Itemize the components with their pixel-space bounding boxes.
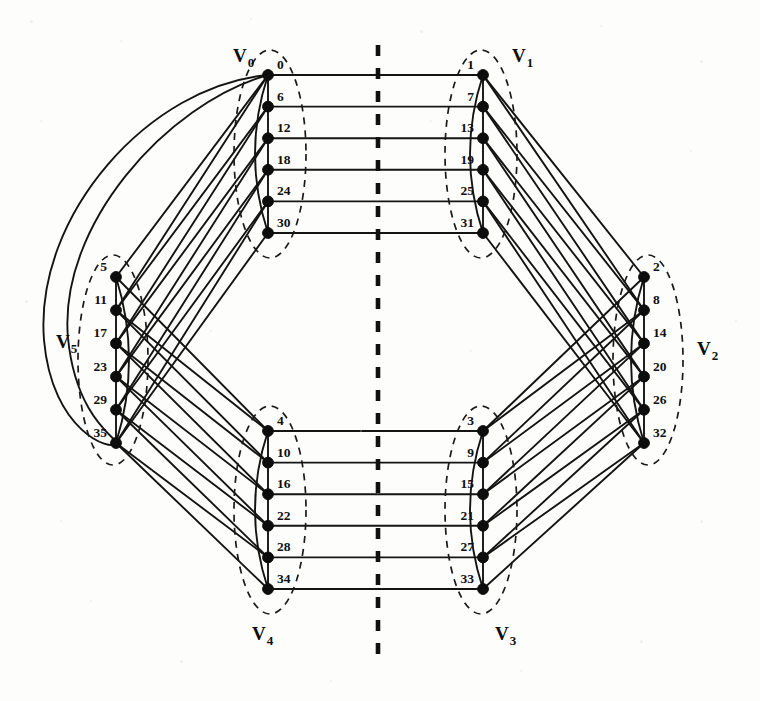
vertex-label-18: 18 <box>277 152 291 167</box>
vertex-25[interactable] <box>478 196 489 207</box>
vertex-label-28: 28 <box>277 539 291 554</box>
vertex-30[interactable] <box>263 228 274 239</box>
edge-v0-v5 <box>116 75 268 310</box>
edge-v5-v4 <box>116 443 268 557</box>
vertex-label-32: 32 <box>653 425 667 440</box>
group-boundary-V0 <box>234 50 306 258</box>
vertex-5[interactable] <box>111 272 122 283</box>
vertex-23[interactable] <box>111 371 122 382</box>
vertex-28[interactable] <box>263 552 274 563</box>
group-label-sub-V4: 4 <box>267 633 274 648</box>
vertex-22[interactable] <box>263 520 274 531</box>
vertex-17[interactable] <box>111 338 122 349</box>
group-label-sub-V3: 3 <box>510 633 517 648</box>
vertex-18[interactable] <box>263 164 274 175</box>
group-label-sub-V0: 0 <box>248 55 255 70</box>
vertex-10[interactable] <box>263 457 274 468</box>
group-label-V1: V1 <box>512 45 533 70</box>
vertex-13[interactable] <box>478 133 489 144</box>
vertex-32[interactable] <box>639 438 650 449</box>
edge-v5-v4 <box>116 310 268 462</box>
inter-group-edge-layer <box>43 75 644 589</box>
vertex-11[interactable] <box>111 305 122 316</box>
vertex-16[interactable] <box>263 489 274 500</box>
graph-diagram-svg: 0612182430171319253128142026323915212733… <box>0 0 760 701</box>
edge-v2-v3 <box>483 443 644 557</box>
vertex-label-30: 30 <box>277 215 291 230</box>
edge-v1-v2 <box>483 138 644 343</box>
edge-v5-v4 <box>116 377 268 526</box>
vertex-33[interactable] <box>478 584 489 595</box>
edge-v5-v4 <box>116 410 268 526</box>
vertex-35[interactable] <box>111 438 122 449</box>
edge-v2-v3 <box>483 377 644 526</box>
group-label-V4: V4 <box>252 623 274 648</box>
vertex-label-7: 7 <box>467 89 474 104</box>
vertex-label-19: 19 <box>461 152 475 167</box>
group-boundary-V4 <box>234 406 306 614</box>
edge-v1-v2 <box>483 170 644 377</box>
vertex-29[interactable] <box>111 404 122 415</box>
vertex-15[interactable] <box>478 489 489 500</box>
edge-v0-v5 <box>116 107 268 311</box>
edge-v1-v2 <box>483 75 644 277</box>
edge-v0-v5 <box>116 75 268 277</box>
vertex-6[interactable] <box>263 101 274 112</box>
edge-v1-v2 <box>483 75 644 310</box>
group-label-V5: V5 <box>56 331 78 356</box>
vertex-2[interactable] <box>639 272 650 283</box>
vertex-label-25: 25 <box>461 183 475 198</box>
vertex-20[interactable] <box>639 371 650 382</box>
group-label-sub-V2: 2 <box>712 348 719 363</box>
vertex-7[interactable] <box>478 101 489 112</box>
edge-v2-v3 <box>483 410 644 526</box>
vertex-1[interactable] <box>478 70 489 81</box>
vertex-12[interactable] <box>263 133 274 144</box>
edge-v2-v3 <box>483 343 644 462</box>
vertex-label-9: 9 <box>467 445 474 460</box>
vertex-21[interactable] <box>478 520 489 531</box>
vertex-3[interactable] <box>478 426 489 437</box>
edge-v5-v4 <box>116 343 268 494</box>
vertex-34[interactable] <box>263 584 274 595</box>
group-label-V0: V0 <box>233 45 254 70</box>
vertex-label-16: 16 <box>277 476 291 491</box>
edge-v1-v2 <box>483 138 644 376</box>
vertex-label-1: 1 <box>467 57 474 72</box>
vertex-31[interactable] <box>478 228 489 239</box>
vertex-label-2: 2 <box>653 259 660 274</box>
vertex-label-22: 22 <box>277 508 291 523</box>
vertex-label-21: 21 <box>461 508 475 523</box>
vertex-26[interactable] <box>639 404 650 415</box>
vertex-label-20: 20 <box>653 359 667 374</box>
group-label-sub-V5: 5 <box>71 341 78 356</box>
vertex-label-11: 11 <box>94 292 107 307</box>
vertex-27[interactable] <box>478 552 489 563</box>
vertex-24[interactable] <box>263 196 274 207</box>
edge-v1-v2 <box>483 170 644 410</box>
vertex-label-33: 33 <box>461 571 475 586</box>
vertex-label-6: 6 <box>277 89 284 104</box>
group-label-V2: V2 <box>697 338 718 363</box>
vertex-0[interactable] <box>263 70 274 81</box>
vertex-8[interactable] <box>639 305 650 316</box>
group-label-V3: V3 <box>495 623 517 648</box>
vertex-9[interactable] <box>478 457 489 468</box>
vertex-label-13: 13 <box>461 120 475 135</box>
vertex-label-0: 0 <box>277 57 284 72</box>
edge-v0-v5 <box>116 201 268 409</box>
vertex-4[interactable] <box>263 426 274 437</box>
vertex-label-27: 27 <box>461 539 475 554</box>
vertex-14[interactable] <box>639 338 650 349</box>
edge-v0-v5 <box>116 107 268 344</box>
edge-v5-v4 <box>116 343 268 462</box>
vertex-label-31: 31 <box>461 215 475 230</box>
vertex-label-17: 17 <box>94 325 108 340</box>
vertex-label-29: 29 <box>94 392 108 407</box>
vertex-19[interactable] <box>478 164 489 175</box>
vertex-label-12: 12 <box>277 120 291 135</box>
edge-v5-v4 <box>116 377 268 495</box>
edge-v1-v2 <box>483 233 644 443</box>
edge-v5-v4 <box>116 443 268 589</box>
long-wrap-edge-inner <box>67 75 268 443</box>
